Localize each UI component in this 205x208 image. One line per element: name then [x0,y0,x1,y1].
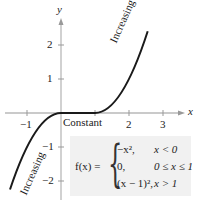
x-tick-label-2: 2 [126,119,132,130]
formula-case2-cond: 0 ≤ x ≤ 1 [154,160,193,172]
x-tick-label-neg1: −1 [20,119,32,130]
y-tick-label-neg1: −1 [42,141,54,152]
y-axis-label: y [57,4,62,15]
x-axis-label: x [188,106,193,117]
x-axis-arrow-icon [178,111,185,116]
curve-right-branch [95,31,148,113]
piecewise-formula-box: f(x) = { −x², x < 0 0, 0 ≤ x ≤ 1 (x − 1)… [70,136,191,196]
formula-case3-cond: x > 1 [154,177,177,189]
constant-annotation: Constant [62,116,103,128]
y-tick-label-neg2: −2 [42,175,54,186]
formula-function-name: f(x) = [75,160,100,172]
formula-case2-expr: 0, [117,160,125,172]
y-tick-label-2: 2 [47,39,53,50]
y-axis-arrow-icon [59,18,64,25]
formula-case1-cond: x < 0 [154,143,177,155]
formula-case3-expr: (x − 1)², [117,177,153,189]
y-tick-label-1: 1 [47,73,53,84]
formula-case1-expr: −x², [117,143,135,155]
x-tick-label-3: 3 [160,119,166,130]
